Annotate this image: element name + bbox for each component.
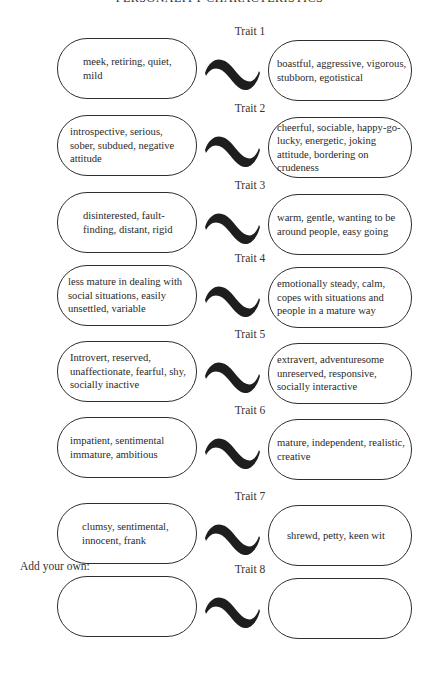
trait-right-box: cheerful, sociable, happy-go-lucky, ener… — [268, 117, 412, 178]
tilde-icon — [203, 430, 261, 474]
trait-row-5: Trait 5 Introvert, reserved, unaffection… — [0, 328, 439, 404]
trait-right-box: warm, gentle, wanting to be around peopl… — [268, 194, 412, 255]
trait-right-text: cheerful, sociable, happy-go-lucky, ener… — [277, 121, 407, 175]
trait-row-4: Trait 4 less mature in dealing with soci… — [0, 252, 439, 328]
trait-left-text: impatient, sentimental immature, ambitio… — [70, 434, 190, 461]
trait-right-text: shrewd, petty, keen wit — [287, 529, 385, 543]
tilde-icon — [203, 278, 261, 322]
trait-left-box: clumsy, sentimental, innocent, frank — [57, 503, 197, 564]
trait-row-8: Trait 8 — [0, 563, 439, 639]
trait-left-box: introspective, serious, sober, subdued, … — [57, 115, 197, 176]
trait-right-box: extravert, adventuresome unreserved, res… — [268, 343, 412, 404]
tilde-icon — [203, 205, 261, 249]
trait-row-3: Trait 3 disinterested, fault-finding, di… — [0, 179, 439, 255]
trait-row-7: Trait 7 clumsy, sentimental, innocent, f… — [0, 490, 439, 566]
trait-right-text: boastful, aggressive, vigorous, stubborn… — [277, 57, 407, 84]
trait-label: Trait 4 — [210, 252, 290, 264]
trait-left-box: disinterested, fault-finding, distant, r… — [57, 192, 197, 253]
tilde-icon — [203, 516, 261, 560]
trait-left-input-box[interactable] — [57, 576, 197, 637]
trait-right-input-box[interactable] — [268, 578, 412, 639]
trait-right-text: emotionally steady, calm, copes with sit… — [277, 277, 407, 318]
trait-right-text: mature, independent, realistic, creative — [277, 436, 407, 463]
trait-left-text: disinterested, fault-finding, distant, r… — [83, 209, 190, 236]
trait-label: Trait 3 — [210, 179, 290, 191]
trait-left-text: less mature in dealing with social situa… — [68, 275, 190, 316]
trait-left-text: introspective, serious, sober, subdued, … — [70, 125, 190, 166]
trait-row-2: Trait 2 introspective, serious, sober, s… — [0, 102, 439, 178]
trait-right-box: shrewd, petty, keen wit — [268, 505, 412, 566]
tilde-icon — [203, 589, 261, 633]
trait-label: Trait 8 — [210, 563, 290, 575]
trait-left-box: Introvert, reserved, unaffectionate, fea… — [57, 341, 197, 402]
trait-label: Trait 1 — [210, 25, 290, 37]
tilde-icon — [203, 51, 261, 95]
trait-left-box: impatient, sentimental immature, ambitio… — [57, 417, 197, 478]
trait-right-box: boastful, aggressive, vigorous, stubborn… — [268, 40, 412, 101]
page-title: PERSONALITY CHARACTERISTICS — [0, 0, 439, 6]
trait-left-text: clumsy, sentimental, innocent, frank — [82, 520, 190, 547]
trait-left-box: less mature in dealing with social situa… — [57, 265, 197, 326]
trait-right-text: extravert, adventuresome unreserved, res… — [277, 353, 407, 394]
tilde-icon — [203, 354, 261, 398]
trait-right-text: warm, gentle, wanting to be around peopl… — [277, 211, 407, 238]
trait-left-box: meek, retiring, quiet, mild — [57, 38, 197, 99]
trait-right-box: emotionally steady, calm, copes with sit… — [268, 267, 412, 328]
trait-left-text: Introvert, reserved, unaffectionate, fea… — [70, 351, 190, 392]
trait-label: Trait 2 — [210, 102, 290, 114]
trait-label: Trait 6 — [210, 404, 290, 416]
trait-row-6: Trait 6 impatient, sentimental immature,… — [0, 404, 439, 480]
trait-right-box: mature, independent, realistic, creative — [268, 419, 412, 480]
tilde-icon — [203, 128, 261, 172]
trait-left-text: meek, retiring, quiet, mild — [83, 55, 190, 82]
trait-label: Trait 7 — [210, 490, 290, 502]
trait-row-1: Trait 1 meek, retiring, quiet, mild boas… — [0, 25, 439, 101]
trait-label: Trait 5 — [210, 328, 290, 340]
